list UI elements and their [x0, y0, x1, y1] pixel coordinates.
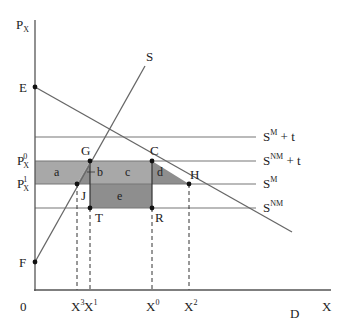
- quantity-label-x2: X2: [184, 298, 197, 314]
- point-f: [33, 260, 38, 265]
- label-snm-plus-t: SNM + t: [263, 152, 301, 168]
- label-sm: SM: [263, 175, 277, 191]
- point-r: [150, 206, 155, 211]
- label-sm-plus-t: SM + t: [263, 128, 295, 144]
- point-label-g: G: [81, 143, 90, 158]
- point-label-h: H: [190, 167, 199, 182]
- region-label-c: c: [125, 165, 130, 179]
- point-label-c: C: [150, 143, 159, 158]
- price-label-p0: P0X: [17, 152, 29, 170]
- quantity-label-x3: X3: [71, 298, 84, 314]
- region-label-d: d: [157, 165, 163, 179]
- region-label-a: a: [54, 165, 60, 179]
- point-j: [75, 182, 80, 187]
- point-label-r: R: [155, 210, 164, 225]
- point-t: [88, 206, 93, 211]
- x-axis-label: X: [322, 299, 332, 314]
- region-label-e: e: [117, 189, 122, 203]
- point-h: [187, 182, 192, 187]
- point-c: [150, 159, 155, 164]
- price-label-p1: P1X: [17, 175, 29, 193]
- point-g: [88, 159, 93, 164]
- point-label-t: T: [95, 210, 103, 225]
- point-label-f: F: [19, 255, 26, 270]
- demand-label: D: [290, 306, 299, 321]
- point-label-e: E: [19, 80, 27, 95]
- tariff-diagram: PX X 0 P0X P1X X3 X1 X0 X2 S D SM + t SN…: [0, 0, 349, 325]
- point-label-j: J: [81, 188, 86, 203]
- point-e: [33, 85, 38, 90]
- region-label-b: b: [97, 165, 103, 179]
- quantity-label-x0: X0: [146, 298, 159, 314]
- origin-label: 0: [20, 299, 27, 314]
- supply-label: S: [146, 49, 153, 64]
- y-axis-label: PX: [16, 17, 29, 34]
- quantity-label-x1: X1: [84, 298, 97, 314]
- label-snm: SNM: [263, 199, 283, 215]
